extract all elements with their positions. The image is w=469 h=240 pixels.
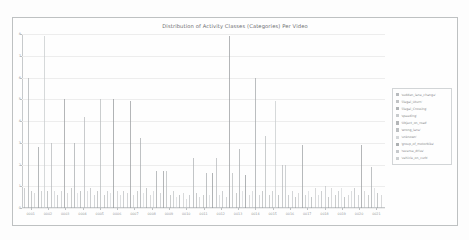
legend-item[interactable]: 'group_of_motorbike' [395,141,449,148]
bar [146,188,147,208]
bar [351,191,352,208]
legend-item[interactable]: 'wrong_lane' [395,126,449,133]
bar [71,188,72,208]
legend-swatch-icon [396,121,399,124]
x-tick-mark [204,208,205,210]
bar [368,195,369,208]
bar [107,191,108,208]
bar [265,136,266,208]
x-tick-mark [83,208,84,210]
bar [67,193,68,208]
bar [110,193,111,208]
bar [302,145,303,208]
bar [41,191,42,208]
bar [295,197,296,208]
bar [170,195,171,208]
gridline [22,56,385,57]
bar [100,99,101,208]
bar [34,193,35,208]
bar [278,195,279,208]
bar [196,193,197,208]
x-tick-mark [342,208,343,210]
y-tick-mark [20,165,22,166]
bar [216,158,217,208]
bar [242,191,243,208]
bar [74,143,75,208]
bar [57,195,58,208]
bar [275,101,276,208]
bar [87,191,88,208]
legend-item[interactable]: 'sudden_lane_change' [395,91,449,98]
bar [338,191,339,208]
legend-swatch-icon [396,157,399,160]
y-tick-mark [20,186,22,187]
bar [61,191,62,208]
legend-item-label: 'vehicle_on_curb' [401,156,428,160]
x-tick-mark [359,208,360,210]
x-tick-mark [221,208,222,210]
bar [206,173,207,208]
bar [236,193,237,208]
y-tick-mark [20,56,22,57]
bar [166,171,167,208]
bar [285,165,286,209]
bar [308,191,309,208]
x-tick-label: 0021 [363,212,389,216]
bar [374,188,375,208]
bar [262,191,263,208]
legend-item-label: 'reverse_drive' [401,149,424,153]
bar [189,195,190,208]
bar [381,195,382,208]
legend-item[interactable]: 'illegal_Uturn' [395,98,449,105]
bar [104,195,105,208]
bar [38,147,39,208]
bar [371,167,372,208]
bar [193,158,194,208]
legend-item-label: 'unknown' [401,135,417,139]
bar [183,193,184,208]
bar [245,175,246,208]
x-tick-mark [100,208,101,210]
bar [226,197,227,208]
bar [28,78,29,209]
y-tick-mark [20,99,22,100]
bar [298,193,299,208]
x-tick-mark [273,208,274,210]
bar [113,99,114,208]
bar [150,195,151,208]
bar [364,191,365,208]
bar [90,188,91,208]
x-tick-mark [255,208,256,210]
legend-item[interactable]: 'speeding' [395,112,449,119]
legend-item[interactable]: 'vehicle_on_curb' [395,155,449,162]
bar [354,188,355,208]
legend-swatch-icon [396,100,399,103]
bar [54,191,55,208]
bar [143,193,144,208]
bar [64,99,65,208]
bar [249,195,250,208]
legend-item[interactable]: 'unknown' [395,134,449,141]
x-tick-mark [325,208,326,210]
bar [377,193,378,208]
legend-swatch-icon [396,136,399,139]
bar [348,195,349,208]
bar [130,101,131,208]
legend-item-label: 'speeding' [401,114,417,118]
bar [255,78,256,209]
legend-item-label: 'group_of_motorbike' [401,142,434,146]
gridline [22,186,385,187]
legend-item[interactable]: 'Object_on_road' [395,119,449,126]
bar [252,191,253,208]
legend-swatch-icon [396,128,399,131]
legend-item[interactable]: 'reverse_drive' [395,148,449,155]
x-tick-mark [307,208,308,210]
gridline [22,143,385,144]
bar [209,195,210,208]
bar [51,143,52,208]
bar [44,36,45,208]
x-tick-mark [186,208,187,210]
bar [163,171,164,208]
legend-item[interactable]: 'illegal_Crossing' [395,105,449,112]
bar [94,195,95,208]
